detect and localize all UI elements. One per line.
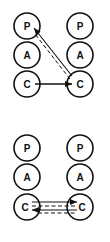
label-c: C [23,79,30,90]
label-a: A [76,172,83,183]
label-a: A [76,50,83,61]
label-p: P [24,21,31,32]
label-p: P [77,21,84,32]
label-c: C [78,202,85,213]
top-diagram: P A C P A C [14,13,93,97]
label-p: P [77,143,84,154]
label-a: A [23,50,30,61]
label-c: C [76,79,83,90]
bottom-diagram: P A C P A C [14,135,93,220]
ego-states-diagram: P A C P A C P A C P A C [0,0,110,242]
label-c: C [21,202,28,213]
label-a: A [23,172,30,183]
label-p: P [24,143,31,154]
